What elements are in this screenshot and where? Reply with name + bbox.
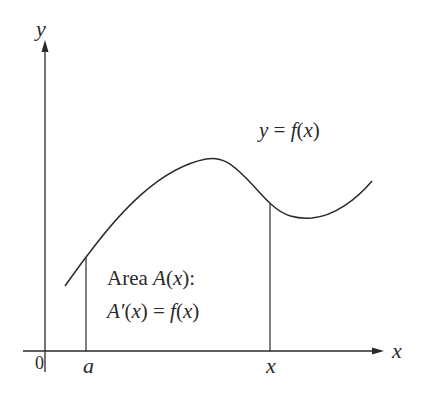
x-axis-arrow-icon xyxy=(372,348,384,355)
curve-label: y = f(x) xyxy=(259,120,320,141)
x-axis-label: x xyxy=(392,340,402,362)
origin-label: 0 xyxy=(35,354,44,372)
curve-label-equals: = xyxy=(268,118,290,142)
area-annotation-line-2: A′(x) = f(x) xyxy=(107,301,199,322)
derivative-var-x: x xyxy=(131,299,140,323)
diagram-canvas xyxy=(0,0,421,398)
tick-label-x: x xyxy=(266,355,276,377)
area-close-colon: ): xyxy=(182,266,195,290)
y-axis-arrow-icon xyxy=(42,40,49,52)
area-word: Area xyxy=(107,266,153,290)
tick-label-a: a xyxy=(83,355,94,377)
area-open-paren: ( xyxy=(166,266,173,290)
derivative-equals: = xyxy=(148,299,170,323)
area-annotation-line-1: Area A(x): xyxy=(107,268,195,289)
area-function-diagram: y x 0 a x y = f(x) Area A(x): A′(x) = f(… xyxy=(0,0,421,398)
derivative-fn-A-prime: A′ xyxy=(107,299,124,323)
curve-label-y: y xyxy=(259,118,268,142)
area-var-x: x xyxy=(173,266,182,290)
curve-label-close-paren: ) xyxy=(313,118,320,142)
derivative-close-paren: ) xyxy=(141,299,148,323)
y-axis-label: y xyxy=(36,18,46,40)
derivative-f-open-paren: ( xyxy=(176,299,183,323)
area-fn-A: A xyxy=(153,266,166,290)
derivative-f-close-paren: ) xyxy=(192,299,199,323)
curve-label-x: x xyxy=(304,118,313,142)
derivative-f-var-x: x xyxy=(183,299,192,323)
curve-label-open-paren: ( xyxy=(297,118,304,142)
